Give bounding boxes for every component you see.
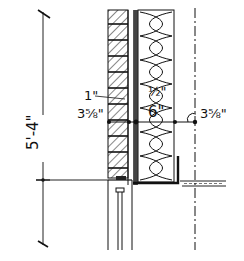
air-space-label: 1" bbox=[84, 88, 98, 103]
window-frame bbox=[108, 176, 132, 250]
air-space-and-sheathing bbox=[128, 10, 137, 185]
brick-veneer bbox=[108, 10, 128, 178]
wall-section-drawing: 5'-4" bbox=[0, 0, 244, 261]
interior-offset-label: 3⅝" bbox=[200, 106, 227, 121]
floor-slab bbox=[180, 181, 226, 186]
overall-height-label: 5'-4" bbox=[24, 114, 42, 150]
sheathing-label: ½" bbox=[148, 84, 167, 99]
masonry-width-label: 3⅝" bbox=[77, 106, 104, 121]
stud-depth-label: 6" bbox=[148, 103, 164, 121]
